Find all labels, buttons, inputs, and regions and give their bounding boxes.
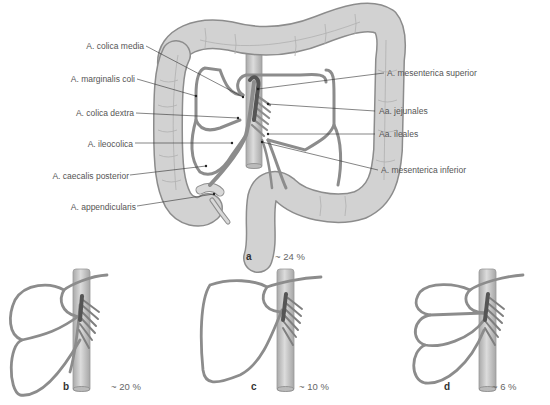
- panel-d-percentage: ~ 6 %: [492, 381, 517, 392]
- arteries: [192, 68, 341, 188]
- label-a-ileocolica: A. ileocolica: [88, 139, 133, 149]
- panel-b-percentage: ~ 20 %: [111, 381, 141, 392]
- panel-d-illustration: [414, 269, 523, 392]
- panel-a-percentage: ~ 24 %: [275, 251, 305, 262]
- panel-c-percentage: ~ 10 %: [299, 381, 329, 392]
- label-a-marginalis-coli: A. marginalis coli: [71, 74, 135, 84]
- label-a-caecalis-posterior: A. caecalis posterior: [52, 171, 129, 181]
- label-aa-jejunales: Aa. jejunales: [379, 106, 428, 116]
- label-a-colica-dextra: A. colica dextra: [76, 108, 134, 118]
- label-a-mesenterica-inferior: A. mesenterica inferior: [381, 165, 466, 175]
- panel-letter-a: a: [246, 251, 252, 262]
- panel-b-illustration: [10, 269, 107, 395]
- label-aa-ileales: Aa. ileales: [379, 129, 418, 139]
- panel-a-illustration: [130, 14, 397, 258]
- panel-letter-d: d: [444, 381, 450, 392]
- label-a-appendicularis: A. appendicularis: [71, 202, 136, 212]
- panel-letter-c: c: [251, 381, 257, 392]
- panel-c-illustration: [201, 269, 321, 392]
- panel-letter-b: b: [63, 381, 69, 392]
- label-a-mesenterica-superior: A. mesenterica superior: [387, 68, 477, 78]
- label-a-colica-media: A. colica media: [86, 41, 144, 51]
